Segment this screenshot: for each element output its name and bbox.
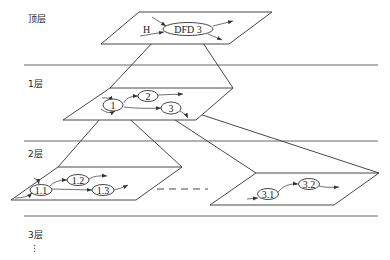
process-2-label: 2 — [146, 91, 151, 102]
process-1-3-label: 1.3 — [97, 185, 110, 196]
process-dfd3-label: DFD 3 — [174, 24, 202, 35]
projection-line — [110, 40, 155, 88]
process-1-label: 1 — [111, 100, 116, 111]
continuation-dots: ⋮ — [30, 243, 39, 253]
process-1-2-label: 1.2 — [72, 175, 85, 186]
process-1-1-label: 1.1 — [35, 185, 48, 196]
top-plane: H DFD 3 — [101, 12, 272, 44]
process-3-label: 3 — [169, 103, 174, 114]
layer-label-2: 2层 — [28, 149, 43, 159]
layer-label-3: 3层 — [28, 230, 43, 240]
projection-line — [181, 108, 379, 173]
dfd-layer-diagram: 顶层 1层 2层 3层 ⋮ H DFD 3 1 2 3 — [0, 0, 390, 260]
source-label-h: H — [143, 24, 150, 35]
process-3-1-label: 3.1 — [262, 189, 275, 200]
level2-right-plane: 3.1 3.2 — [210, 173, 379, 205]
layer-label-1: 1层 — [28, 79, 43, 89]
process-3-2-label: 3.2 — [303, 179, 316, 190]
level2-left-plane: 1.1 1.2 1.3 — [11, 167, 182, 200]
layer-label-top: 顶层 — [28, 14, 46, 24]
level1-plane: 1 2 3 — [63, 88, 233, 120]
projection-line — [201, 40, 233, 88]
